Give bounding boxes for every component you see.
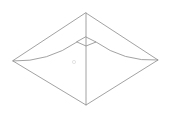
wireframe-diagram	[0, 0, 172, 122]
wireframe-canvas	[0, 0, 172, 122]
